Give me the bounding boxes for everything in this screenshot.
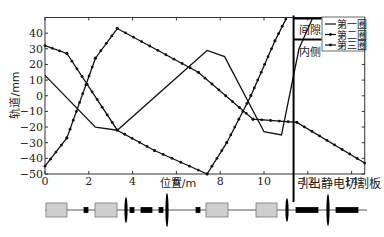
- series-marker: [69, 128, 72, 131]
- series-marker: [211, 83, 214, 86]
- series-marker: [91, 66, 94, 69]
- kicker-element: [326, 194, 329, 226]
- series-marker: [224, 94, 227, 97]
- series-marker: [60, 144, 63, 147]
- series-marker: [131, 137, 134, 140]
- septum-plate: [296, 208, 318, 213]
- series-marker: [287, 120, 290, 123]
- quad-magnet: [159, 208, 163, 213]
- dipole-magnet: [46, 203, 67, 217]
- series-marker: [197, 169, 200, 172]
- quad-magnet: [196, 208, 200, 213]
- series-marker: [220, 149, 223, 152]
- series-marker: [233, 126, 236, 129]
- series-marker: [96, 98, 99, 101]
- series-marker: [75, 110, 78, 113]
- legend-marker: [329, 44, 332, 47]
- x-axis-label: 位置/m: [160, 176, 196, 190]
- series-marker: [197, 71, 200, 74]
- series-marker: [156, 49, 159, 52]
- legend-label: 第一圈: [337, 18, 367, 30]
- series-marker: [281, 25, 284, 28]
- series-marker: [51, 47, 54, 50]
- y-tick-label: 20: [29, 58, 43, 71]
- series-marker: [105, 42, 108, 45]
- series-marker: [204, 77, 207, 80]
- y-tick-label: −30: [20, 137, 43, 150]
- series-marker: [252, 118, 255, 121]
- series-marker: [72, 119, 75, 122]
- series-marker: [260, 118, 263, 121]
- series-marker: [274, 40, 277, 43]
- orbit-chart: 02468101214403020100−10−20−30−40−50位置/m轨…: [0, 0, 384, 237]
- series-marker: [318, 135, 321, 138]
- series-line-1: [45, 19, 312, 135]
- series-marker: [348, 153, 351, 156]
- series-marker: [94, 57, 97, 60]
- septum-caption: 引出静电切割板: [297, 176, 381, 191]
- series-marker: [303, 125, 306, 128]
- series-marker: [116, 27, 119, 30]
- series-marker: [189, 66, 192, 69]
- series-marker: [363, 162, 366, 165]
- series-marker: [253, 87, 256, 90]
- series-marker: [249, 94, 252, 97]
- series-marker: [71, 60, 74, 63]
- series-marker: [81, 92, 84, 95]
- x-tick-label: 2: [85, 175, 92, 188]
- y-tick-label: 40: [29, 27, 43, 40]
- series-marker: [148, 45, 151, 48]
- series-marker: [58, 49, 61, 52]
- dipole-magnet: [95, 203, 117, 217]
- series-marker: [229, 133, 232, 136]
- series-marker: [162, 153, 165, 156]
- series-marker: [237, 118, 240, 121]
- series-marker: [66, 137, 69, 140]
- series-marker: [333, 144, 336, 147]
- legend-label: 第二圈: [337, 29, 367, 41]
- series-marker: [84, 83, 87, 86]
- series-marker: [179, 161, 182, 164]
- series-marker: [217, 88, 220, 91]
- series-marker: [238, 106, 241, 109]
- series-marker: [91, 90, 94, 93]
- series-marker: [311, 130, 314, 133]
- series-marker: [188, 165, 191, 168]
- y-tick-label: 0: [36, 90, 43, 103]
- dipole-magnet: [206, 203, 228, 217]
- series-marker: [44, 165, 47, 168]
- series-marker: [101, 106, 104, 109]
- series-marker: [99, 49, 102, 52]
- series-marker: [173, 58, 176, 61]
- legend-marker: [329, 33, 332, 36]
- x-tick-label: 10: [257, 175, 271, 188]
- series-marker: [78, 101, 81, 104]
- gap-label: 间隙: [299, 23, 321, 37]
- series-marker: [140, 40, 143, 43]
- series-marker: [49, 158, 52, 161]
- series-marker: [260, 71, 263, 74]
- kicker-element: [124, 197, 127, 223]
- series-marker: [269, 119, 272, 122]
- series-marker: [164, 53, 167, 56]
- series-marker: [81, 75, 84, 78]
- series-marker: [76, 67, 79, 70]
- series-marker: [55, 151, 58, 154]
- series-marker: [263, 63, 266, 66]
- series-marker: [153, 149, 156, 152]
- series-marker: [123, 133, 126, 136]
- series-marker: [132, 36, 135, 39]
- quad-magnet: [84, 208, 88, 213]
- series-marker: [66, 52, 69, 55]
- quad-magnet: [141, 208, 152, 213]
- kicker-element: [285, 198, 288, 222]
- series-marker: [267, 55, 270, 58]
- y-tick-label: 10: [29, 74, 43, 87]
- septum-plate: [336, 208, 358, 213]
- series-marker: [326, 139, 329, 142]
- series-marker: [231, 100, 234, 103]
- inner-label: 内侧: [299, 45, 321, 59]
- y-tick-label: −40: [20, 152, 43, 165]
- series-marker: [138, 141, 141, 144]
- series-marker: [285, 18, 288, 21]
